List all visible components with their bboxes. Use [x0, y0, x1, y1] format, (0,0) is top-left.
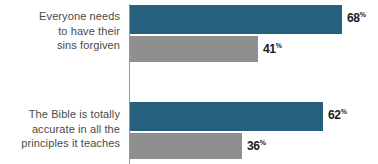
bar-series-2-category-0	[130, 36, 258, 62]
percent-sign: %	[341, 108, 347, 115]
bar-series-2-category-1	[130, 133, 242, 159]
value-label-series-2-category-0: 41%	[263, 42, 282, 56]
value-label-series-2-category-1: 36%	[247, 139, 266, 153]
value-label-series-1-category-1: 62%	[328, 108, 347, 122]
category-label-1-line-2: principles it teaches	[0, 136, 120, 151]
percent-sign: %	[276, 42, 282, 49]
value-number: 68	[347, 11, 360, 25]
plot-area: 68% 41% 62% 36%	[129, 0, 378, 164]
category-label-0-line-2: sins forgiven	[0, 38, 120, 53]
category-label-1-line-1: accurate in all the	[0, 122, 120, 137]
category-label-0-line-1: to have their	[0, 24, 120, 39]
value-number: 41	[263, 42, 276, 56]
category-label-1: The Bible is totally accurate in all the…	[0, 107, 120, 151]
percent-sign: %	[360, 11, 366, 18]
horizontal-bar-chart: Everyone needs to have their sins forgiv…	[0, 0, 378, 164]
bar-series-1-category-1	[130, 102, 323, 131]
category-label-0-line-0: Everyone needs	[0, 9, 120, 24]
bar-series-1-category-0	[130, 5, 342, 34]
percent-sign: %	[260, 139, 266, 146]
value-number: 62	[328, 108, 341, 122]
category-label-1-line-0: The Bible is totally	[0, 107, 120, 122]
category-label-0: Everyone needs to have their sins forgiv…	[0, 9, 120, 53]
value-number: 36	[247, 139, 260, 153]
value-label-series-1-category-0: 68%	[347, 11, 366, 25]
